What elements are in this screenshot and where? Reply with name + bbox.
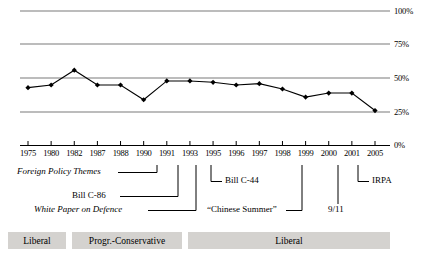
x-axis <box>20 141 390 146</box>
leader-irpa <box>358 165 369 182</box>
leader-bill-c-44 <box>211 165 222 182</box>
data-point-marker <box>187 78 192 83</box>
xtick-label-2000: 2000 <box>321 148 337 158</box>
party-bar-label: Liberal <box>23 236 50 246</box>
ytick-label-100: 100% <box>394 6 413 16</box>
data-point-marker <box>257 81 262 86</box>
xtick-label-1996: 1996 <box>228 148 244 158</box>
line-chart-canvas <box>0 0 423 160</box>
party-bar-label: Liberal <box>275 236 302 246</box>
xtick-label-1975: 1975 <box>20 148 36 158</box>
data-point-marker <box>303 94 308 99</box>
data-point-marker <box>72 68 77 73</box>
leader-white-paper-on-defence <box>148 165 196 211</box>
annotation-foreign-policy-themes: Foreign Policy Themes <box>17 166 101 176</box>
data-line-share <box>28 70 375 110</box>
chart-figure: 100% 75% 50% 25% 0% 19751980198219871988… <box>0 0 423 267</box>
party-bar-progressive-conservative: Progr.-Conservative <box>72 232 182 249</box>
data-point-marker <box>118 82 123 87</box>
xtick-label-1982: 1982 <box>66 148 82 158</box>
data-point-marker <box>25 85 30 90</box>
annotation-bill-c-44: Bill C-44 <box>225 175 259 185</box>
xtick-label-1995: 1995 <box>205 148 221 158</box>
ytick-label-75: 75% <box>394 39 409 49</box>
party-bar-liberal-2: Liberal <box>188 232 390 249</box>
x-axis-ticks <box>28 141 375 146</box>
ytick-label-50: 50% <box>394 73 409 83</box>
annotation-nine-eleven: 9/11 <box>328 204 344 214</box>
plot-area: 100% 75% 50% 25% 0% <box>0 0 423 160</box>
leader-foreign-policy-themes <box>118 165 157 173</box>
data-point-marker <box>234 82 239 87</box>
leader-bill-c-86 <box>120 165 178 197</box>
xtick-label-1999: 1999 <box>298 148 314 158</box>
xtick-label-2001: 2001 <box>344 148 360 158</box>
data-markers-share <box>25 68 377 114</box>
annotation-bill-c-86: Bill C-86 <box>72 190 106 200</box>
annotation-white-paper-on-defence: White Paper on Defence <box>34 204 122 214</box>
xtick-label-2005: 2005 <box>367 148 383 158</box>
xtick-label-1991: 1991 <box>159 148 175 158</box>
xtick-label-1998: 1998 <box>275 148 291 158</box>
ytick-label-25: 25% <box>394 107 409 117</box>
annotation-chinese-summer: “Chinese Summer” <box>207 204 277 214</box>
data-point-marker <box>280 86 285 91</box>
annotation-irpa: IRPA <box>372 175 392 185</box>
xtick-label-1997: 1997 <box>251 148 267 158</box>
party-bar-label: Progr.-Conservative <box>89 236 165 246</box>
party-bar-liberal-1: Liberal <box>8 232 66 249</box>
xtick-label-1993: 1993 <box>182 148 198 158</box>
data-point-marker <box>326 90 331 95</box>
gridlines <box>20 11 390 112</box>
data-point-marker <box>210 80 215 85</box>
xtick-label-1980: 1980 <box>43 148 59 158</box>
party-period-bars: Liberal Progr.-Conservative Liberal <box>0 232 423 252</box>
xtick-label-1990: 1990 <box>136 148 152 158</box>
xtick-label-1987: 1987 <box>89 148 105 158</box>
annotation-layer: Foreign Policy Themes Bill C-86 White Pa… <box>0 160 423 222</box>
xtick-label-1988: 1988 <box>113 148 129 158</box>
leader-chinese-summer <box>286 165 302 211</box>
